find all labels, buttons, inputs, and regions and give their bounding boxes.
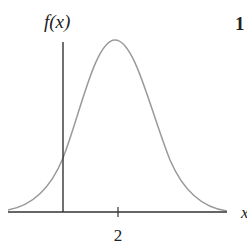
x-axis-label: x: [240, 203, 247, 222]
density-curve: [8, 40, 227, 211]
x-tick-label-2: 2: [114, 226, 123, 245]
corner-text: 1: [235, 13, 245, 34]
normal-curve-chart: 2 f(x) x 1: [0, 0, 247, 245]
y-axis-label: f(x): [44, 11, 70, 33]
